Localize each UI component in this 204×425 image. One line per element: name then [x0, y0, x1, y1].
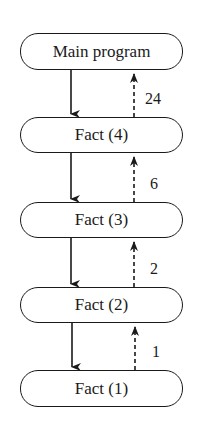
- node-label: Main program: [53, 42, 151, 62]
- node-fact-4: Fact (4): [20, 117, 183, 153]
- return-value-label-1: 1: [152, 343, 160, 361]
- node-label: Fact (1): [75, 379, 128, 399]
- return-value-label-2: 2: [150, 260, 158, 278]
- return-value-label-24: 24: [145, 90, 161, 108]
- node-label: Fact (3): [75, 210, 128, 230]
- node-fact-3: Fact (3): [20, 202, 183, 238]
- node-label: Fact (4): [75, 125, 128, 145]
- node-label: Fact (2): [75, 295, 128, 315]
- node-fact-2: Fact (2): [20, 287, 183, 323]
- node-fact-1: Fact (1): [20, 370, 183, 407]
- node-main-program: Main program: [20, 33, 183, 70]
- return-value-label-6: 6: [150, 175, 158, 193]
- recursion-diagram: Main program Fact (4) Fact (3) Fact (2) …: [0, 0, 204, 425]
